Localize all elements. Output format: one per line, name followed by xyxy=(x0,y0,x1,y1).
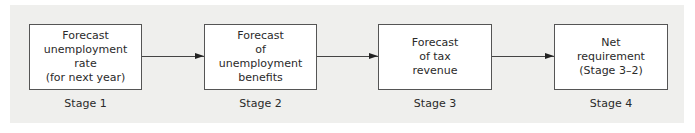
stage-2-line-1: Forecast xyxy=(237,29,284,43)
stage-4-box: Net requirement (Stage 3–2) xyxy=(554,24,668,90)
arrow-2-to-3 xyxy=(317,56,378,57)
arrow-3-to-4 xyxy=(492,56,554,57)
arrow-1-to-2 xyxy=(142,56,204,57)
stage-4-line-3: (Stage 3–2) xyxy=(579,64,642,78)
stage-4-line-2: requirement xyxy=(577,50,645,64)
stage-1-label: Stage 1 xyxy=(29,97,142,110)
stage-1-line-2: unemployment xyxy=(44,43,127,57)
stage-3-line-3: revenue xyxy=(412,64,457,78)
stage-1-line-3: rate xyxy=(74,57,96,71)
stage-1-box: Forecast unemployment rate (for next yea… xyxy=(29,24,142,90)
stage-3-line-2: of tax xyxy=(419,50,451,64)
stage-2-line-3: unemployment xyxy=(219,57,302,71)
stage-2-line-2: of xyxy=(255,43,266,57)
stage-4-label: Stage 4 xyxy=(554,97,668,110)
stage-2-box: Forecast of unemployment benefits xyxy=(204,24,317,90)
stage-3-box: Forecast of tax revenue xyxy=(378,24,492,90)
stage-3-line-1: Forecast xyxy=(412,36,459,50)
stage-1-line-4: (for next year) xyxy=(46,71,126,85)
stage-4-line-1: Net xyxy=(601,36,620,50)
stage-2-label: Stage 2 xyxy=(204,97,317,110)
stage-2-line-4: benefits xyxy=(238,71,282,85)
stage-3-label: Stage 3 xyxy=(378,97,492,110)
stage-1-line-1: Forecast xyxy=(62,29,109,43)
